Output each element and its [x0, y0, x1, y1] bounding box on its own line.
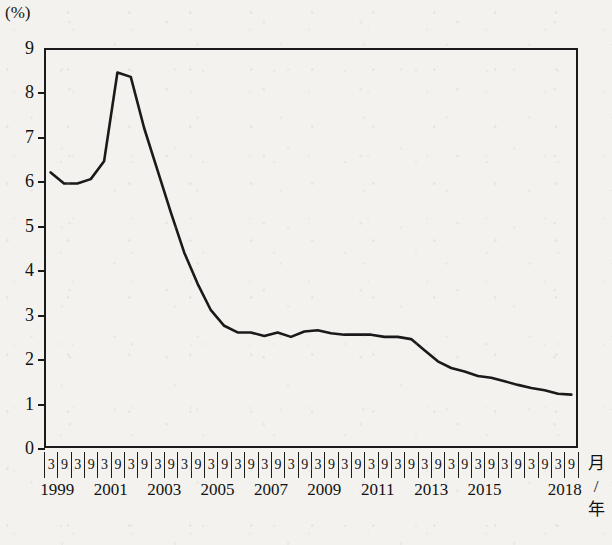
x-axis-month-tick: 3 — [259, 452, 272, 478]
x-axis-month-tick: 9 — [432, 452, 445, 478]
x-axis-month-tick: 3 — [419, 452, 432, 478]
x-axis-year-label: 2007 — [248, 479, 294, 501]
x-axis-month-tick: 3 — [178, 452, 191, 478]
x-axis-year-label: 2005 — [195, 479, 241, 501]
x-axis-month-tick: 3 — [152, 452, 165, 478]
x-axis-month-tick: 3 — [525, 452, 538, 478]
x-axis-year-label: 2003 — [141, 479, 187, 501]
data-series-line — [44, 48, 578, 448]
x-axis-month-tick: 3 — [232, 452, 245, 478]
x-axis-month-tick: 9 — [379, 452, 392, 478]
y-axis-tick-mark — [38, 448, 45, 450]
x-axis-month-tick: 9 — [485, 452, 498, 478]
x-axis-month-tick: 3 — [445, 452, 458, 478]
y-axis-tick-label: 2 — [8, 350, 34, 368]
x-axis-month-tick: 9 — [245, 452, 258, 478]
x-axis-unit-label: 月 / 年 — [583, 452, 609, 521]
x-axis-month-tick: 3 — [499, 452, 512, 478]
x-axis-year-label: 1999 — [34, 479, 80, 501]
x-axis-year-label: 2015 — [462, 479, 508, 501]
y-axis-tick-label: 6 — [8, 172, 34, 190]
x-axis-month-tick: 9 — [85, 452, 98, 478]
x-axis-month-tick: 3 — [98, 452, 111, 478]
x-axis-month-tick: 3 — [472, 452, 485, 478]
x-axis-month-tick: 9 — [165, 452, 178, 478]
x-axis-month-tick: 9 — [565, 452, 578, 478]
x-axis-month-tick: 9 — [138, 452, 151, 478]
x-axis-month-tick: 9 — [325, 452, 338, 478]
x-axis-month-tick: 9 — [192, 452, 205, 478]
x-axis-month-tick: 9 — [512, 452, 525, 478]
x-axis-unit-year: 年 — [583, 498, 609, 521]
x-axis-month-tick: 3 — [45, 452, 58, 478]
y-axis-tick-label: 3 — [8, 306, 34, 324]
x-axis-month-tick: 3 — [72, 452, 85, 478]
x-axis-year-label: 2011 — [355, 479, 401, 501]
y-axis-tick-label: 8 — [8, 83, 34, 101]
x-axis-unit-slash: / — [583, 475, 609, 498]
x-axis-month-tick: 9 — [539, 452, 552, 478]
x-axis-month-tick: 9 — [405, 452, 418, 478]
x-axis-year-label: 2018 — [542, 479, 588, 501]
x-axis-month-tick: 9 — [112, 452, 125, 478]
x-axis-year-label: 2009 — [301, 479, 347, 501]
x-axis-month-tick: 3 — [125, 452, 138, 478]
x-axis-month-tick: 9 — [459, 452, 472, 478]
x-axis-month-tick: 9 — [272, 452, 285, 478]
x-axis-month-tick: 3 — [205, 452, 218, 478]
line-chart: (%) 9876543210 3939393939393939393939393… — [0, 0, 612, 545]
x-axis-month-tick: 3 — [552, 452, 565, 478]
x-axis-month-tick: 9 — [352, 452, 365, 478]
y-axis-tick-label: 9 — [8, 39, 34, 57]
x-axis-month-tick: 9 — [218, 452, 231, 478]
x-axis-unit-month: 月 — [583, 452, 609, 475]
x-axis-year-label: 2001 — [88, 479, 134, 501]
x-axis-month-tick: 3 — [285, 452, 298, 478]
y-axis-tick-label: 0 — [8, 439, 34, 457]
x-axis-month-tick: 9 — [58, 452, 71, 478]
x-axis-month-tick: 3 — [392, 452, 405, 478]
y-axis-tick-label: 7 — [8, 128, 34, 146]
y-axis-tick-label: 5 — [8, 217, 34, 235]
x-axis-year-label-row: 1999200120032005200720092011201320152018 — [44, 479, 578, 503]
x-axis-month-tick: 3 — [312, 452, 325, 478]
x-axis-month-tick: 9 — [299, 452, 312, 478]
y-axis-tick-label: 1 — [8, 395, 34, 413]
x-axis-month-tick: 3 — [365, 452, 378, 478]
y-axis-tick-label: 4 — [8, 261, 34, 279]
y-axis-unit-label: (%) — [5, 4, 30, 22]
x-axis-month-tick: 3 — [339, 452, 352, 478]
x-axis-month-tick-row: 3939393939393939393939393939393939393939 — [44, 452, 579, 478]
x-axis-year-label: 2013 — [408, 479, 454, 501]
